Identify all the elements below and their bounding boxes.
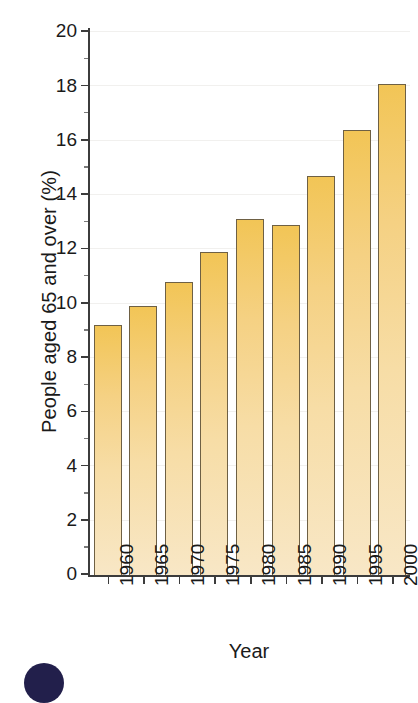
y-tick-label: 0: [66, 563, 77, 585]
x-tick-label: 1980: [258, 564, 280, 586]
y-tick-minor: [84, 329, 88, 330]
bar: [236, 219, 264, 575]
x-tick-label: 1960: [116, 564, 138, 586]
y-tick-minor: [84, 384, 88, 385]
x-tick-label: 1985: [294, 564, 316, 586]
y-tick-label: 6: [66, 400, 77, 422]
plot-area: 02468101214161820: [88, 32, 410, 577]
y-tick-minor: [84, 438, 88, 439]
x-tick-label: 1970: [187, 564, 209, 586]
y-tick-major: 14: [81, 193, 88, 195]
x-tick: [214, 577, 216, 584]
y-tick-label: 2: [66, 509, 77, 531]
bar: [378, 84, 406, 575]
x-tick: [108, 577, 110, 584]
y-tick-major: 8: [81, 356, 88, 358]
y-tick-major: 16: [81, 139, 88, 141]
bar: [129, 306, 157, 575]
y-tick-label: 18: [56, 75, 77, 97]
y-tick-major: 6: [81, 411, 88, 413]
x-tick: [321, 577, 323, 584]
y-tick-major: 0: [81, 573, 88, 575]
y-tick-label: 20: [56, 20, 77, 42]
y-tick-label: 4: [66, 455, 77, 477]
x-tick: [357, 577, 359, 584]
y-tick-major: 10: [81, 302, 88, 304]
bar-series: [90, 32, 410, 575]
y-tick-minor: [84, 492, 88, 493]
bar: [200, 252, 228, 575]
y-tick-label: 8: [66, 346, 77, 368]
y-tick-minor: [84, 58, 88, 59]
x-tick: [250, 577, 252, 584]
bar: [307, 176, 335, 575]
y-tick-major: 4: [81, 465, 88, 467]
bar: [343, 130, 371, 575]
y-tick-minor: [84, 221, 88, 222]
x-tick: [286, 577, 288, 584]
y-tick-label: 10: [56, 292, 77, 314]
figure-number-badge: [24, 663, 64, 703]
y-tick-label: 16: [56, 129, 77, 151]
x-tick-label: 2000: [400, 564, 418, 586]
y-tick-minor: [84, 546, 88, 547]
y-tick-minor: [84, 275, 88, 276]
x-tick-label: 1965: [151, 564, 173, 586]
bar: [94, 325, 122, 575]
y-tick-minor: [84, 166, 88, 167]
x-tick: [143, 577, 145, 584]
y-tick-major: 18: [81, 85, 88, 87]
y-tick-major: 2: [81, 519, 88, 521]
y-tick-major: 12: [81, 248, 88, 250]
x-tick: [179, 577, 181, 584]
y-tick-label: 14: [56, 183, 77, 205]
bar: [272, 225, 300, 575]
bar: [165, 282, 193, 575]
y-tick-label: 12: [56, 237, 77, 259]
x-tick-label: 1995: [365, 564, 387, 586]
y-tick-major: 20: [81, 30, 88, 32]
x-tick-label: 1990: [329, 564, 351, 586]
x-axis-title: Year: [88, 640, 410, 663]
y-tick-minor: [84, 112, 88, 113]
x-tick-label: 1975: [222, 564, 244, 586]
x-tick: [392, 577, 394, 584]
